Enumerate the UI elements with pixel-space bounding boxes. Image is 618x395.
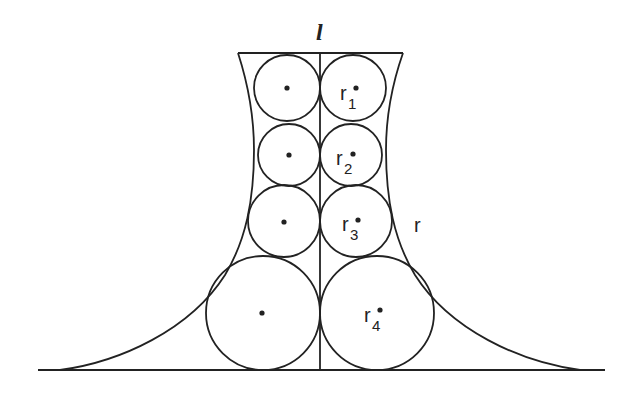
center-dot: [350, 151, 355, 156]
left-circles: [206, 55, 320, 370]
right-profile-curve: [386, 53, 580, 370]
center-dot: [281, 219, 286, 224]
center-dot: [284, 85, 289, 90]
svg-text:4: 4: [372, 317, 380, 334]
svg-text:3: 3: [350, 226, 358, 243]
center-dot: [286, 152, 291, 157]
center-dot: [355, 217, 360, 222]
svg-text:r: r: [364, 304, 371, 326]
radius-label-r2: r 2: [336, 147, 352, 177]
axis-label-l: l: [316, 19, 323, 45]
hyperboloid-circles-diagram: l r r 1 r 2 r 3 r 4: [0, 0, 618, 395]
radius-label-r3: r 3: [342, 213, 358, 243]
svg-text:r: r: [340, 82, 347, 104]
circle-right-4: [320, 256, 434, 370]
svg-text:2: 2: [344, 160, 352, 177]
center-dot: [353, 85, 358, 90]
center-dot: [259, 310, 264, 315]
svg-text:r: r: [336, 147, 343, 169]
center-dot: [377, 307, 382, 312]
svg-text:1: 1: [348, 95, 356, 112]
left-profile-curve: [60, 53, 254, 370]
curve-label-r: r: [414, 214, 421, 236]
svg-text:r: r: [342, 213, 349, 235]
